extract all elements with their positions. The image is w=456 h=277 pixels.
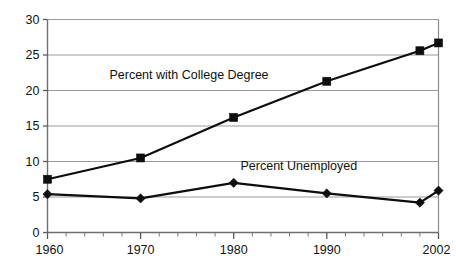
marker-square-0-1980 bbox=[230, 113, 238, 121]
y-tick-label-30: 30 bbox=[26, 13, 40, 27]
x-tick-label-1960: 1960 bbox=[36, 243, 64, 257]
y-tick-label-25: 25 bbox=[26, 48, 40, 62]
marker-square-0-1970 bbox=[137, 154, 145, 162]
marker-square-0-2000 bbox=[416, 47, 424, 55]
x-tick-label-1980: 1980 bbox=[220, 243, 248, 257]
x-tick-label-1990: 1990 bbox=[313, 243, 341, 257]
annotation-label-0: Percent with College Degree bbox=[109, 68, 268, 82]
marker-square-0-1960 bbox=[44, 175, 52, 183]
y-tick-label-10: 10 bbox=[26, 155, 40, 169]
marker-square-0-1990 bbox=[323, 77, 331, 85]
annotation-label-1: Percent Unemployed bbox=[240, 159, 357, 173]
y-tick-label-20: 20 bbox=[26, 84, 40, 98]
line-chart: 051015202530 19601970198019902002 Percen… bbox=[0, 0, 456, 277]
y-tick-label-5: 5 bbox=[33, 190, 40, 204]
y-tick-label-0: 0 bbox=[33, 226, 40, 240]
y-tick-label-15: 15 bbox=[26, 119, 40, 133]
chart-background bbox=[0, 0, 456, 277]
x-tick-label-2002: 2002 bbox=[423, 243, 451, 257]
x-tick-label-1970: 1970 bbox=[127, 243, 155, 257]
chart-container: 051015202530 19601970198019902002 Percen… bbox=[0, 0, 456, 277]
marker-square-0-2002 bbox=[435, 39, 443, 47]
